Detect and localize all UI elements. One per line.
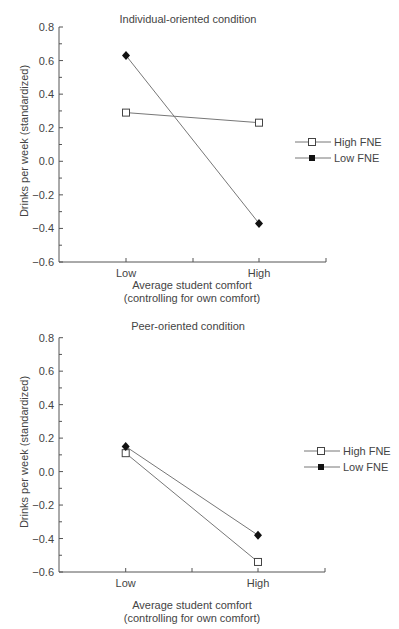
y-tick-label: 0.4: [39, 88, 54, 100]
y-tick-label: 0.6: [39, 365, 54, 377]
y-tick-label: 0.8: [39, 21, 54, 33]
x-axis-sublabel: (controlling for own comfort): [124, 292, 260, 304]
chart-peer-oriented: Peer-oriented condition Drinks per week …: [0, 310, 399, 629]
legend-item: Low FNE: [304, 461, 388, 473]
y-tick-label: 0.8: [39, 332, 54, 344]
x-axis-label: Average student comfort: [132, 279, 252, 291]
legend-item: High FNE: [304, 445, 391, 457]
chart-individual-oriented: Individual-oriented condition Drinks per…: [0, 0, 399, 310]
series-line-high-fne: [126, 453, 258, 562]
series-line-low-fne: [126, 446, 258, 535]
plot-area: 0.80.60.40.20.0−0.2−0.4−0.6LowHigh: [32, 332, 325, 589]
data-point: [254, 531, 262, 540]
legend-marker: [318, 464, 324, 470]
series-line-low-fne: [126, 56, 259, 224]
y-tick-label: −0.2: [32, 499, 54, 511]
legend-marker: [318, 448, 325, 455]
y-tick-label: 0.2: [39, 122, 54, 134]
legend-label: Low FNE: [334, 152, 379, 164]
chart-title: Peer-oriented condition: [131, 320, 245, 332]
data-point: [255, 558, 262, 565]
x-tick-label: Low: [116, 267, 136, 279]
y-tick-label: −0.4: [32, 533, 54, 545]
x-tick-label: Low: [116, 577, 136, 589]
x-axis-label: Average student comfort: [132, 599, 252, 611]
legend-label: Low FNE: [343, 461, 388, 473]
legend: High FNELow FNE: [295, 136, 382, 164]
y-tick-label: −0.2: [32, 189, 54, 201]
x-axis-sublabel: (controlling for own comfort): [124, 612, 260, 624]
y-tick-label: −0.6: [32, 566, 54, 578]
legend-label: High FNE: [343, 445, 391, 457]
legend: High FNELow FNE: [304, 445, 391, 473]
x-tick-label: High: [248, 267, 271, 279]
data-point: [256, 119, 263, 126]
legend-marker: [309, 139, 316, 146]
y-tick-label: 0.6: [39, 55, 54, 67]
y-axis-label: Drinks per week (standardized): [18, 65, 30, 217]
y-tick-label: −0.6: [32, 256, 54, 268]
chart-svg: Peer-oriented condition Drinks per week …: [0, 310, 399, 629]
y-tick-label: 0.0: [39, 155, 54, 167]
legend-label: High FNE: [334, 136, 382, 148]
chart-svg: Individual-oriented condition Drinks per…: [0, 0, 399, 310]
plot-area: 0.80.60.40.20.0−0.2−0.4−0.6LowHigh: [32, 21, 326, 279]
y-tick-label: −0.4: [32, 222, 54, 234]
legend-marker: [309, 155, 315, 161]
legend-item: High FNE: [295, 136, 382, 148]
y-tick-label: 0.4: [39, 399, 54, 411]
x-tick-label: High: [247, 577, 270, 589]
chart-title: Individual-oriented condition: [120, 13, 257, 25]
series-line-high-fne: [126, 113, 259, 123]
y-tick-label: 0.0: [39, 466, 54, 478]
y-tick-label: 0.2: [39, 432, 54, 444]
legend-item: Low FNE: [295, 152, 379, 164]
data-point: [123, 109, 130, 116]
y-axis-label: Drinks per week (standardized): [18, 376, 30, 528]
